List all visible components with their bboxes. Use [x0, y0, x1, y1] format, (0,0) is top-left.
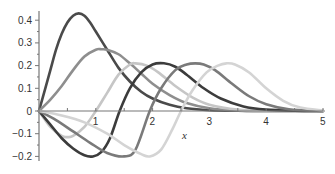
x-axis-label: x	[181, 129, 187, 141]
y-tick-label: 0.4	[18, 15, 32, 26]
curves-group	[39, 13, 323, 156]
x-tick-label: 3	[206, 116, 212, 127]
line-chart: 12345 0.40.30.20.10−0.1−0.2 x	[0, 0, 335, 174]
x-tick-label: 4	[263, 116, 269, 127]
y-tick-label: −0.1	[12, 128, 32, 139]
x-tick-label: 2	[150, 116, 156, 127]
y-tick-label: 0.3	[18, 37, 32, 48]
axes-group: 12345 0.40.30.20.10−0.1−0.2 x	[12, 11, 326, 162]
y-ticks: 0.40.30.20.10−0.1−0.2	[12, 15, 39, 162]
x-tick-label: 1	[93, 116, 99, 127]
y-tick-label: −0.2	[12, 151, 32, 162]
x-tick-label: 5	[320, 116, 326, 127]
curve-1-line	[39, 13, 323, 111]
y-tick-label: 0.1	[18, 83, 32, 94]
curve-2-line	[39, 49, 323, 111]
y-tick-label: 0.2	[18, 60, 32, 71]
y-tick-label: 0	[26, 106, 32, 117]
